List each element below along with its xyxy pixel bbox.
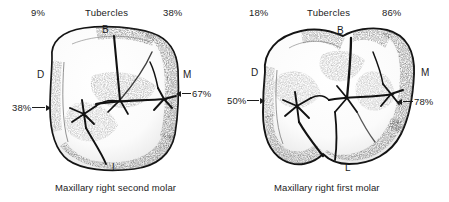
first-molar-right-annotation: 78% bbox=[397, 96, 433, 107]
first-molar-tubercles-header: Tubercles bbox=[307, 8, 350, 18]
second-molar-tubercles-header: Tubercles bbox=[85, 8, 128, 18]
second-molar-percent-top-right: 38% bbox=[163, 8, 182, 18]
second-molar-caption: Maxillary right second molar bbox=[55, 183, 176, 193]
second-molar-orientation-mesial: M bbox=[183, 70, 191, 80]
arrow-left-icon bbox=[397, 99, 402, 105]
panel-maxillary-right-second-molar: 9% Tubercles 38% B D M L 38% 67% Maxilla… bbox=[0, 0, 224, 202]
dental-tubercles-figure: 9% Tubercles 38% B D M L 38% 67% Maxilla… bbox=[0, 0, 449, 202]
first-molar-orientation-buccal: B bbox=[337, 26, 344, 36]
second-molar-percent-top-left: 9% bbox=[31, 8, 45, 18]
arrow-right-icon bbox=[260, 98, 265, 104]
arrow-left-icon bbox=[176, 91, 181, 97]
first-molar-left-annotation: 50% bbox=[227, 95, 265, 106]
arrow-shaft-icon bbox=[403, 101, 413, 102]
first-molar-percent-right-value: 78% bbox=[414, 96, 433, 107]
second-molar-orientation-distal: D bbox=[37, 70, 44, 80]
arrow-shaft-icon bbox=[32, 107, 45, 108]
second-molar-percent-right-value: 67% bbox=[192, 88, 211, 99]
second-molar-orientation-buccal: B bbox=[102, 25, 109, 35]
arrow-shaft-icon bbox=[247, 100, 259, 101]
arrow-shaft-icon bbox=[182, 93, 191, 94]
panel-maxillary-right-first-molar: 18% Tubercles 86% B D M L 50% 78% Maxill… bbox=[225, 0, 449, 202]
arrow-right-icon bbox=[46, 105, 51, 111]
first-molar-percent-top-right: 86% bbox=[382, 8, 401, 18]
second-molar-left-annotation: 38% bbox=[12, 102, 51, 113]
first-molar-orientation-mesial: M bbox=[421, 68, 429, 78]
first-molar-percent-top-left: 18% bbox=[249, 8, 268, 18]
first-molar-orientation-lingual: L bbox=[345, 163, 351, 173]
first-molar-percent-left-value: 50% bbox=[227, 95, 246, 106]
second-molar-percent-left-value: 38% bbox=[12, 102, 31, 113]
first-molar-orientation-distal: D bbox=[251, 68, 258, 78]
second-molar-orientation-lingual: L bbox=[112, 163, 118, 173]
second-molar-right-annotation: 67% bbox=[176, 88, 211, 99]
first-molar-caption: Maxillary right first molar bbox=[274, 183, 380, 193]
